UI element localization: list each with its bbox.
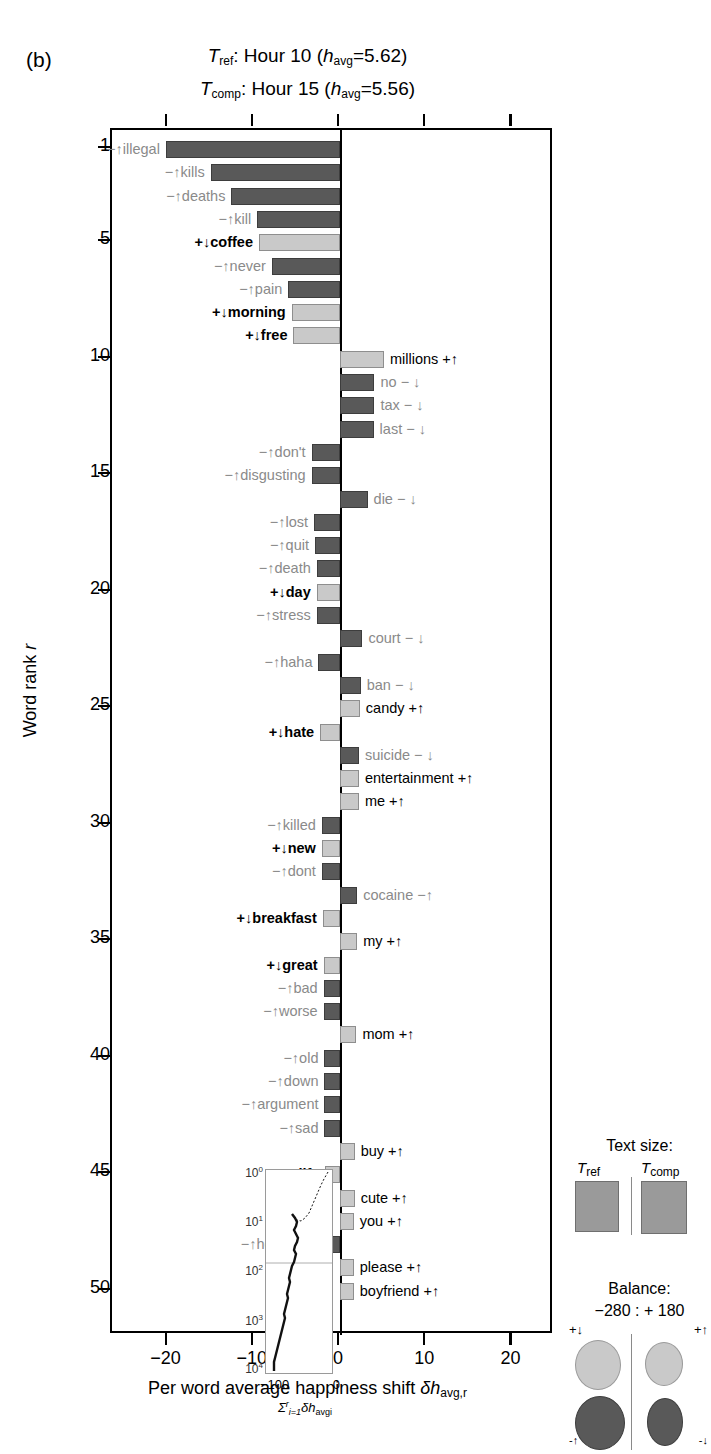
bar-lost[interactable] xyxy=(314,514,340,531)
bar-entertainment[interactable] xyxy=(340,770,359,787)
bar-label-suicide: suicide − ↓ xyxy=(365,747,434,764)
bar-suicide[interactable] xyxy=(340,747,359,764)
bar-me[interactable] xyxy=(340,793,359,810)
bar-my[interactable] xyxy=(340,933,357,950)
legend-circle-pos-comp xyxy=(645,1342,683,1386)
bar-you[interactable] xyxy=(340,1213,354,1230)
bar-day[interactable] xyxy=(317,584,340,601)
figure-title: Tref: Hour 10 (havg=5.62) Tcomp: Hour 15… xyxy=(0,42,615,108)
bar-argument[interactable] xyxy=(324,1096,340,1113)
bar-stress[interactable] xyxy=(317,607,340,624)
bar-mom[interactable] xyxy=(340,1026,356,1043)
word-shift-plot: −↑illegal−↑kills−↑deaths−↑kill+↓coffee−↑… xyxy=(110,128,552,1333)
x-tick-mark-top-2 xyxy=(337,114,339,126)
bar-sad[interactable] xyxy=(324,1120,340,1137)
bar-free[interactable] xyxy=(293,327,340,344)
legend-balance-heading: Balance: xyxy=(567,1280,711,1298)
bar-worse[interactable] xyxy=(324,1003,340,1020)
bar-label-tax: tax − ↓ xyxy=(380,397,423,414)
legend-balance-values: −280 : + 180 xyxy=(567,1302,711,1320)
y-tick-mark-40 xyxy=(98,1055,110,1057)
bar-quit[interactable] xyxy=(315,537,340,554)
delta-h-subscript: avgi xyxy=(316,1407,333,1417)
bar-boyfriend[interactable] xyxy=(340,1283,354,1300)
bar-label-death: −↑death xyxy=(259,560,311,577)
bar-label-hate: +↓hate xyxy=(269,724,315,741)
bar-please[interactable] xyxy=(340,1259,354,1276)
title-line-ref: Tref: Hour 10 (havg=5.62) xyxy=(0,42,615,75)
inset-y-tick-4: 104 xyxy=(230,1361,263,1376)
bar-label-entertainment: entertainment +↑ xyxy=(365,770,473,787)
bar-hate[interactable] xyxy=(320,724,340,741)
bar-coffee[interactable] xyxy=(259,234,340,251)
bar-disgusting[interactable] xyxy=(312,467,340,484)
x-tick-mark-top-0 xyxy=(165,114,167,126)
x-axis-label-symbol: δh xyxy=(420,1378,440,1398)
bar-don't[interactable] xyxy=(312,444,340,461)
bar-label-pain: −↑pain xyxy=(239,281,282,298)
bar-label-cocaine: cocaine −↑ xyxy=(363,887,433,904)
h-avg-symbol-comp: h xyxy=(331,78,342,99)
bar-millions[interactable] xyxy=(340,351,384,368)
inset-y-tick-1: 101 xyxy=(230,1214,263,1229)
inset-y-tick-3: 103 xyxy=(230,1313,263,1328)
bar-label-millions: millions +↑ xyxy=(390,351,458,368)
legend-circle-neg-comp xyxy=(647,1398,683,1446)
bar-pain[interactable] xyxy=(288,281,340,298)
bar-deaths[interactable] xyxy=(231,188,340,205)
bar-label-argument: −↑argument xyxy=(242,1096,319,1113)
h-avg-symbol-ref: h xyxy=(323,45,334,66)
bar-label-stress: −↑stress xyxy=(256,607,310,624)
bar-down[interactable] xyxy=(324,1073,340,1090)
bar-kill[interactable] xyxy=(257,211,340,228)
bar-kills[interactable] xyxy=(211,164,340,181)
bar-label-disgusting: −↑disgusting xyxy=(225,467,306,484)
bar-old[interactable] xyxy=(324,1050,340,1067)
bar-label-killed: −↑killed xyxy=(267,817,316,834)
bar-killed[interactable] xyxy=(322,817,340,834)
bar-label-sad: −↑sad xyxy=(279,1120,318,1137)
bar-cocaine[interactable] xyxy=(340,887,357,904)
bar-label-die: die − ↓ xyxy=(374,491,417,508)
x-tick-mark-2 xyxy=(337,1333,339,1345)
bar-never[interactable] xyxy=(272,258,340,275)
bar-label-you: you +↑ xyxy=(360,1213,403,1230)
bar-court[interactable] xyxy=(340,630,362,647)
bar-great[interactable] xyxy=(324,957,340,974)
t-comp-symbol: T xyxy=(200,78,212,99)
bar-bad[interactable] xyxy=(324,980,340,997)
bar-buy[interactable] xyxy=(340,1143,355,1160)
bar-no[interactable] xyxy=(340,374,374,391)
legend-square-ref xyxy=(575,1181,619,1232)
x-tick-mark-4 xyxy=(509,1333,511,1345)
bar-morning[interactable] xyxy=(292,304,340,321)
bar-new[interactable] xyxy=(322,840,340,857)
bar-label-my: my +↑ xyxy=(363,933,402,950)
cumulative-inset-plot: 100101102103104 −100 0 Σri=1δhavgi xyxy=(230,1163,335,1393)
bar-death[interactable] xyxy=(317,560,340,577)
bar-breakfast[interactable] xyxy=(323,910,340,927)
bar-label-dont: −↑dont xyxy=(272,863,316,880)
bar-dont[interactable] xyxy=(322,863,340,880)
legend-balance-top-right-label: +↑ xyxy=(694,1322,708,1337)
bar-die[interactable] xyxy=(340,491,368,508)
bar-ban[interactable] xyxy=(340,677,361,694)
y-tick-mark-35 xyxy=(98,938,110,940)
h-avg-subscript-comp: avg xyxy=(341,87,360,101)
bar-label-coffee: +↓coffee xyxy=(195,234,253,251)
bar-illegal[interactable] xyxy=(166,141,340,158)
legend-tcomp-label: Tcomp xyxy=(641,1159,680,1179)
bar-haha[interactable] xyxy=(318,654,340,671)
bar-candy[interactable] xyxy=(340,700,360,717)
bar-tax[interactable] xyxy=(340,397,374,414)
y-tick-mark-30 xyxy=(98,822,110,824)
bar-label-candy: candy +↑ xyxy=(366,700,424,717)
bar-label-great: +↓great xyxy=(266,957,317,974)
legend-text-size-squares: Tref Tcomp xyxy=(567,1159,711,1247)
delta-h-symbol: δh xyxy=(301,1400,315,1415)
bar-cute[interactable] xyxy=(340,1190,355,1207)
bar-last[interactable] xyxy=(340,421,374,438)
bar-label-lost: −↑lost xyxy=(270,514,308,531)
x-axis-label: Per word average happiness shift δhavg,r xyxy=(0,1378,615,1400)
legend-balance: Balance: −280 : + 180 +↓ +↑ -↑ -↓ xyxy=(567,1280,711,1454)
